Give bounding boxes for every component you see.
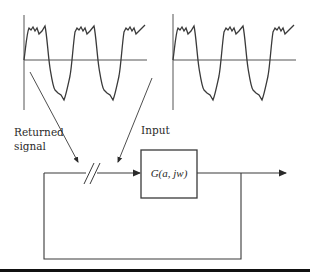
input-waveform bbox=[173, 25, 294, 100]
input-plot bbox=[173, 14, 296, 110]
feedback-loop: G(a, jw) bbox=[44, 150, 286, 259]
transfer-function-label: G(a, jw) bbox=[151, 167, 188, 180]
returned-signal-waveform bbox=[24, 25, 145, 100]
returned-signal-label-line1: Returned bbox=[14, 126, 64, 138]
diagram-canvas: Returned signal Input G(a, jw) bbox=[0, 0, 310, 276]
input-label: Input bbox=[141, 124, 170, 136]
bottom-rule bbox=[0, 269, 310, 272]
returned-signal-label-line2: signal bbox=[14, 140, 46, 152]
